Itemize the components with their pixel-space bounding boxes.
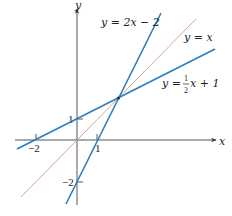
label-y-equals-x: y = x	[183, 31, 213, 44]
line-y-equals-x	[21, 19, 196, 197]
x-tick-label-minus2: −2	[28, 142, 40, 154]
label-half-suffix: x + 1	[190, 77, 219, 90]
label-y-equals-2x-minus-2: y = 2x − 2	[100, 16, 160, 29]
y-tick-label-minus2: −2	[62, 176, 74, 188]
y-axis-label: y	[74, 0, 82, 12]
label-half-prefix: y =	[161, 77, 181, 90]
coordinate-plot: x y −2 1 1 −2 y = 2x − 2 y = x y = 1 2 x…	[0, 0, 232, 216]
label-half-denominator: 2	[184, 86, 188, 95]
label-half-numerator: 1	[184, 74, 188, 83]
label-y-equals-half-x-plus-1: y = 1 2 x + 1	[161, 74, 219, 95]
line-y-equals-half-x-plus-1	[17, 49, 215, 149]
intersection-point	[117, 96, 120, 99]
x-axis-label: x	[219, 135, 226, 148]
line-y-equals-2x-minus-2	[66, 13, 161, 204]
